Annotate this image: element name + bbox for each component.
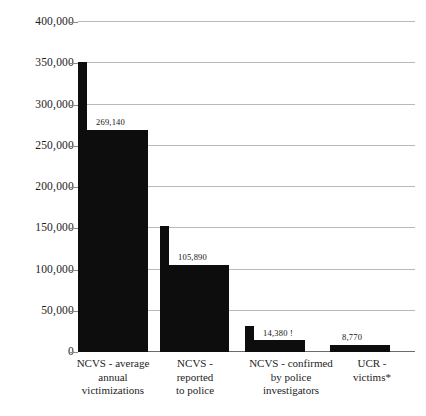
y-axis-tick-label: 350,000 xyxy=(4,57,74,69)
bar-group: 14,380 ! xyxy=(245,22,305,352)
x-axis-category-label: NCVS - average annual victimizations xyxy=(58,357,168,398)
bar xyxy=(160,265,229,352)
y-axis-tick-mark xyxy=(70,352,78,353)
bar xyxy=(78,130,148,352)
y-axis-tick-mark xyxy=(70,63,78,64)
bar xyxy=(245,340,305,352)
y-axis-tick-mark xyxy=(70,270,78,271)
bar-value-label: 105,890 xyxy=(178,253,207,262)
y-axis-tick-mark xyxy=(70,105,78,106)
bar-group: 105,890 xyxy=(160,22,229,352)
bar-group: 8,770 xyxy=(330,22,390,352)
plot-area: 269,140105,89014,380 !8,770 xyxy=(78,22,415,352)
bar xyxy=(330,345,390,352)
y-axis-tick-label: 300,000 xyxy=(4,99,74,111)
y-axis-tick-label: 0 xyxy=(4,346,74,358)
y-axis-tick-mark xyxy=(70,22,78,23)
bar-value-label: 269,140 xyxy=(96,118,125,127)
y-axis-tick-mark xyxy=(70,311,78,312)
y-axis-tick-label: 200,000 xyxy=(4,181,74,193)
y-axis-tick-mark xyxy=(70,228,78,229)
x-axis-category-label: UCR - victims* xyxy=(340,357,404,384)
y-axis-tick-label: 400,000 xyxy=(4,16,74,28)
y-axis-tick-label: 250,000 xyxy=(4,140,74,152)
x-axis-category-label: NCVS - reported to police xyxy=(158,357,232,398)
y-axis-tick-label: 150,000 xyxy=(4,222,74,234)
bar-value-label: 14,380 ! xyxy=(263,329,293,338)
y-axis-tick-mark xyxy=(70,187,78,188)
x-axis-category-label: NCVS - confirmed by police investigators xyxy=(236,357,346,398)
y-axis-tick-mark xyxy=(70,146,78,147)
y-axis-tick-label: 50,000 xyxy=(4,305,74,317)
bar-value-label: 8,770 xyxy=(342,333,362,342)
bar-group: 269,140 xyxy=(78,22,148,352)
y-axis-tick-label: 100,000 xyxy=(4,264,74,276)
bar-chart: 050,000100,000150,000200,000250,000300,0… xyxy=(0,0,426,416)
